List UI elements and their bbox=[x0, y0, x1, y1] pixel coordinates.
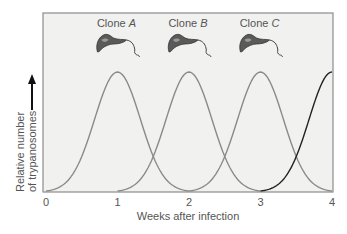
x-tick-label: 2 bbox=[186, 196, 192, 208]
clone-label: Clone A bbox=[97, 17, 136, 29]
x-tick-label: 1 bbox=[114, 196, 120, 208]
y-axis-title: Relative number of trypanosomes bbox=[14, 110, 38, 192]
y-axis-title-line-1: Relative number bbox=[14, 112, 26, 192]
clone-label: Clone C bbox=[240, 17, 280, 29]
x-tick-label: 3 bbox=[257, 196, 263, 208]
trypanosome-chart: Clone AClone BClone C 01234 Weeks after … bbox=[0, 0, 347, 234]
y-axis-title-line-2: of trypanosomes bbox=[26, 110, 38, 192]
up-arrow-icon bbox=[28, 74, 36, 110]
clone-label: Clone B bbox=[168, 17, 207, 29]
x-tick-label: 4 bbox=[329, 196, 335, 208]
x-axis-ticks: 01234 bbox=[43, 196, 335, 208]
x-tick-label: 0 bbox=[43, 196, 49, 208]
x-axis-title: Weeks after infection bbox=[137, 210, 240, 222]
